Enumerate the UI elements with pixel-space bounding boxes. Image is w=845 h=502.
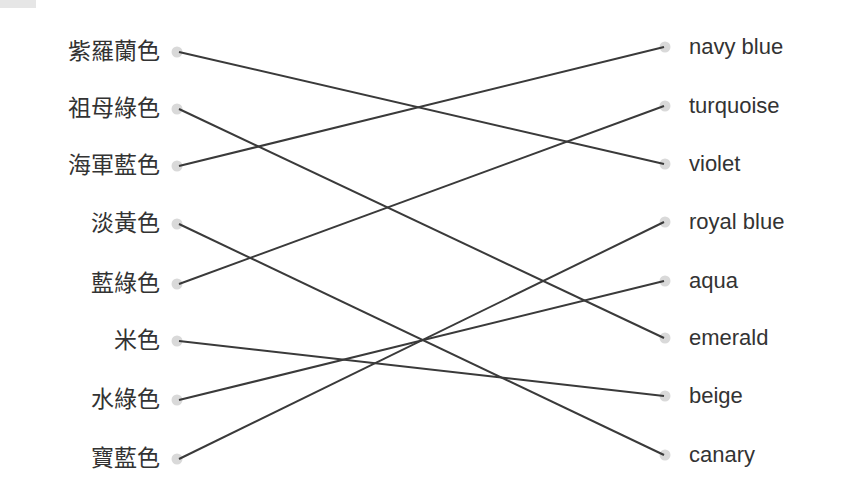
left-item-navy-blue[interactable]: 海軍藍色 (68, 151, 160, 179)
right-item-aqua[interactable]: aqua (689, 267, 738, 295)
left-item-beige[interactable]: 米色 (114, 326, 160, 354)
left-item-violet[interactable]: 紫羅蘭色 (68, 37, 160, 65)
right-item-beige[interactable]: beige (689, 382, 743, 410)
right-item-violet[interactable]: violet (689, 150, 740, 178)
right-anchor-dot[interactable] (660, 450, 671, 461)
left-item-canary[interactable]: 淡黃色 (91, 209, 160, 237)
right-item-royal-blue[interactable]: royal blue (689, 208, 784, 236)
right-item-turquoise[interactable]: turquoise (689, 92, 780, 120)
left-item-aqua[interactable]: 水綠色 (91, 385, 160, 413)
left-item-royal-blue[interactable]: 寶藍色 (91, 444, 160, 472)
left-item-emerald[interactable]: 祖母綠色 (68, 94, 160, 122)
right-item-canary[interactable]: canary (689, 441, 755, 469)
right-anchor-dot[interactable] (660, 333, 671, 344)
connection-line (179, 109, 664, 338)
connection-canvas (0, 0, 845, 502)
right-item-navy-blue[interactable]: navy blue (689, 33, 783, 61)
right-item-emerald[interactable]: emerald (689, 324, 768, 352)
connection-line (179, 341, 664, 396)
left-item-turquoise[interactable]: 藍綠色 (91, 269, 160, 297)
right-anchor-dot[interactable] (660, 217, 671, 228)
